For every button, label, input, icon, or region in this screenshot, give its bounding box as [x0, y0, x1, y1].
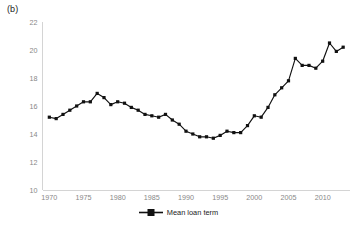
data-point-marker	[61, 113, 64, 116]
x-axis-tick-label: 1985	[144, 193, 160, 202]
data-point-marker	[246, 124, 249, 127]
figure-panel-b: (b) 10121416182022 197019751980198519901…	[0, 0, 356, 229]
x-axis-tick-labels: 197019751980198519901995200020052010	[41, 193, 330, 202]
data-point-marker	[260, 116, 263, 119]
data-point-marker	[253, 114, 256, 117]
data-point-marker	[273, 93, 276, 96]
data-point-marker	[219, 134, 222, 137]
x-axis-tick-label: 2000	[246, 193, 262, 202]
data-point-marker	[171, 118, 174, 121]
data-point-marker	[55, 117, 58, 120]
data-point-marker	[164, 113, 167, 116]
data-point-marker	[143, 113, 146, 116]
x-axis-tick-label: 2010	[315, 193, 331, 202]
data-point-marker	[321, 60, 324, 63]
data-point-marker	[96, 92, 99, 95]
y-axis-tick-label: 16	[30, 102, 38, 111]
x-axis-tick-label: 1970	[41, 193, 57, 202]
chart-legend: Mean loan term	[0, 208, 356, 217]
data-point-marker	[266, 106, 269, 109]
y-axis-tick-label: 14	[30, 130, 38, 139]
data-point-marker	[123, 102, 126, 105]
data-point-marker	[294, 57, 297, 60]
x-axis-tick-label: 1995	[212, 193, 228, 202]
data-point-marker	[102, 96, 105, 99]
data-point-marker	[287, 79, 290, 82]
data-point-marker	[212, 137, 215, 140]
y-axis-tick-label: 10	[30, 186, 38, 195]
data-point-marker	[232, 131, 235, 134]
data-point-marker	[280, 86, 283, 89]
data-point-marker	[239, 131, 242, 134]
data-point-marker	[184, 130, 187, 133]
y-axis-tick-label: 12	[30, 158, 38, 167]
data-point-marker	[109, 103, 112, 106]
data-point-marker	[116, 100, 119, 103]
series-line-mean-loan-term	[49, 43, 343, 138]
data-point-marker	[48, 116, 51, 119]
data-point-marker	[75, 104, 78, 107]
data-point-marker	[130, 106, 133, 109]
data-point-marker	[198, 135, 201, 138]
data-point-marker	[301, 64, 304, 67]
data-series-group	[48, 41, 345, 139]
data-point-marker	[205, 135, 208, 138]
y-axis-tick-label: 22	[30, 18, 38, 27]
data-point-marker	[314, 67, 317, 70]
x-axis-tick-label: 1980	[110, 193, 126, 202]
data-point-marker	[191, 132, 194, 135]
data-point-marker	[137, 109, 140, 112]
data-point-marker	[178, 123, 181, 126]
data-point-marker	[89, 100, 92, 103]
data-point-marker	[225, 130, 228, 133]
chart-plot-area: 10121416182022 1970197519801985199019952…	[0, 0, 356, 229]
x-axis-tick-label: 2005	[281, 193, 297, 202]
y-axis-tick-labels: 10121416182022	[30, 18, 38, 195]
legend-item-label: Mean loan term	[167, 209, 218, 216]
data-point-marker	[150, 114, 153, 117]
line-square-marker-icon	[138, 208, 164, 217]
data-point-marker	[68, 109, 71, 112]
data-point-marker	[335, 50, 338, 53]
y-axis-tick-label: 20	[30, 46, 38, 55]
data-point-marker	[328, 41, 331, 44]
y-axis-tick-label: 18	[30, 74, 38, 83]
data-point-marker	[82, 100, 85, 103]
line-chart: 10121416182022 1970197519801985199019952…	[0, 0, 356, 229]
x-axis-tick-label: 1975	[76, 193, 92, 202]
x-axis-tick-label: 1990	[178, 193, 194, 202]
data-point-marker	[307, 64, 310, 67]
data-point-marker	[157, 116, 160, 119]
data-point-marker	[342, 46, 345, 49]
